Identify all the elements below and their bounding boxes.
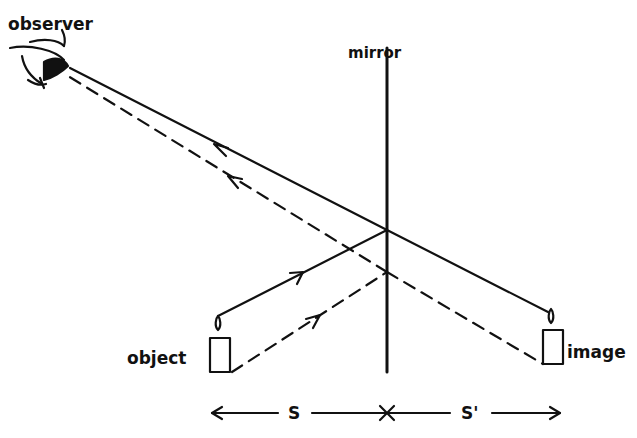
object-distance-label: S (288, 403, 300, 423)
ray-incident-dashed (232, 272, 387, 372)
observer-label: observer (8, 14, 93, 34)
ray-reflected-solid (70, 68, 387, 230)
object-candle-icon (210, 316, 230, 372)
distance-arrows (212, 406, 560, 420)
ray-virtual-dashed (387, 272, 543, 364)
ray-reflected-dashed (68, 76, 387, 272)
arrowhead-icon (214, 144, 228, 156)
mirror-ray-diagram: observer mirror object image S S' (0, 0, 637, 438)
arrowhead-icon (306, 315, 320, 328)
observer-eye-icon (10, 30, 68, 88)
mirror-label: mirror (348, 44, 402, 62)
image-candle-icon (543, 309, 563, 364)
object-label: object (127, 348, 186, 368)
ray-virtual-solid (387, 230, 548, 312)
image-distance-label: S' (461, 403, 478, 423)
image-label: image (567, 342, 626, 362)
